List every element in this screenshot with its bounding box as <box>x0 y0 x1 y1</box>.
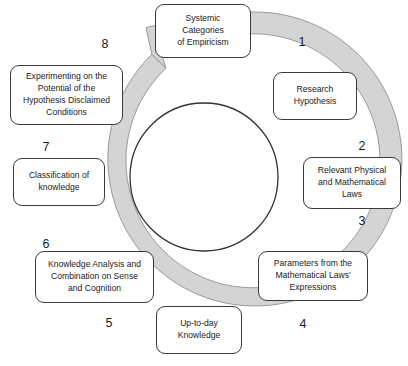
node-experimenting-on-the-potential-of-the-hypothesis-disclaimed-conditions[interactable]: Experimenting on the Potential of the Hy… <box>10 65 123 125</box>
node-label: Up-to-day Knowledge <box>178 318 221 342</box>
step-number-4: 4 <box>294 318 312 331</box>
step-number-7: 7 <box>37 141 55 154</box>
step-number-2: 2 <box>353 140 371 153</box>
node-research-hypothesis[interactable]: Research Hypothesis <box>273 72 357 120</box>
node-systemic-categories-of-empiricism[interactable]: Systemic Categories of Empiricism <box>155 4 251 58</box>
node-label: Classification of knowledge <box>29 170 89 194</box>
center-circle <box>130 103 278 251</box>
node-label: Relevant Physical and Mathematical Laws <box>318 165 386 201</box>
step-number-8: 8 <box>96 38 114 51</box>
step-number-6: 6 <box>37 238 55 251</box>
node-relevant-physical-and-mathematical-laws[interactable]: Relevant Physical and Mathematical Laws <box>303 157 401 209</box>
node-label: Research Hypothesis <box>294 84 337 108</box>
step-number-1: 1 <box>293 36 311 49</box>
cycle-diagram: Systemic Categories of Empiricism Resear… <box>0 0 408 366</box>
node-parameters-from-the-mathematical-laws-expressions[interactable]: Parameters from the Mathematical Laws' E… <box>258 251 368 301</box>
step-number-5: 5 <box>100 317 118 330</box>
node-label: Systemic Categories of Empiricism <box>177 13 229 49</box>
node-label: Experimenting on the Potential of the Hy… <box>23 71 110 118</box>
step-number-3: 3 <box>353 215 371 228</box>
node-label: Knowledge Analysis and Combination on Se… <box>48 259 141 295</box>
node-label: Parameters from the Mathematical Laws' E… <box>274 258 352 294</box>
node-up-to-day-knowledge[interactable]: Up-to-day Knowledge <box>156 306 242 354</box>
node-knowledge-analysis-and-combination-on-sense-and-cognition[interactable]: Knowledge Analysis and Combination on Se… <box>35 251 154 303</box>
node-classification-of-knowledge[interactable]: Classification of knowledge <box>13 158 105 206</box>
